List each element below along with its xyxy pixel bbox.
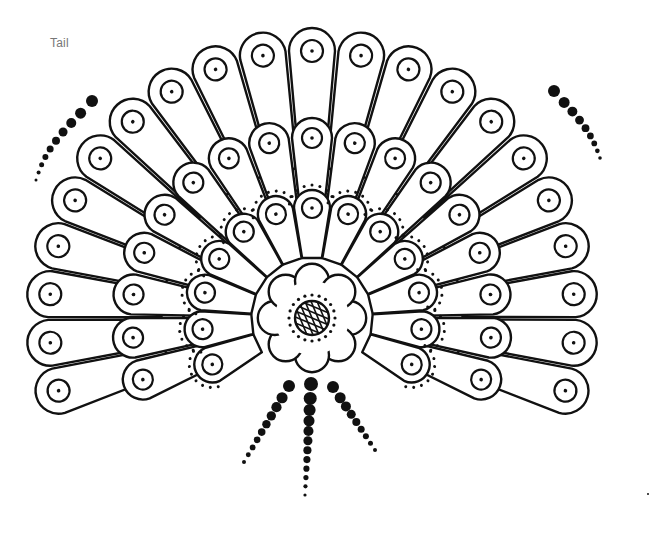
trail-dot — [373, 448, 377, 452]
trail-dot — [368, 441, 373, 446]
center-dot — [329, 330, 332, 333]
trail-dot — [559, 97, 570, 108]
trail-dot — [304, 404, 316, 416]
trail-dot — [267, 411, 276, 420]
border-dot — [288, 203, 291, 206]
trail-dot — [587, 133, 594, 140]
center-dot — [297, 298, 300, 301]
center-dot — [292, 303, 295, 306]
border-dot — [412, 385, 416, 389]
trail-dot — [303, 456, 310, 463]
peacock-tail-drawing — [0, 0, 652, 533]
center-dot — [332, 309, 335, 312]
center-dot — [310, 293, 313, 296]
border-dot — [318, 185, 321, 188]
trail-dot — [303, 415, 314, 426]
center-dot — [303, 295, 306, 298]
border-dot — [426, 379, 430, 383]
trail-dot — [303, 426, 313, 436]
trail-dot — [591, 141, 597, 147]
trail-dot — [303, 484, 307, 488]
trail-dot — [242, 460, 246, 464]
feather-eye-pupil — [310, 49, 314, 53]
border-dot — [296, 189, 299, 192]
trail-dot — [262, 420, 270, 428]
trail-dot — [35, 179, 38, 182]
trail-dot — [304, 377, 318, 391]
border-dot — [194, 379, 198, 383]
border-dot — [208, 385, 212, 389]
trail-dot — [335, 392, 346, 403]
feather-eye-pupil — [310, 206, 314, 210]
trail-dot — [341, 401, 351, 411]
trail-dot — [352, 418, 360, 426]
center-dot — [310, 339, 313, 342]
center-dot — [292, 330, 295, 333]
trail-dot — [258, 428, 266, 436]
center-dot — [324, 335, 327, 338]
border-dot — [325, 189, 328, 192]
border-dot — [311, 184, 314, 187]
trail-dot — [304, 392, 317, 405]
center-dot — [318, 295, 321, 298]
trail-dot — [254, 437, 261, 444]
center-dot — [289, 324, 292, 327]
trail-dot — [303, 436, 312, 445]
center-dot — [324, 298, 327, 301]
trail-dot — [548, 85, 560, 97]
border-dot — [419, 383, 423, 387]
center-dot — [297, 335, 300, 338]
trail-dot — [52, 137, 60, 145]
center-dot — [329, 303, 332, 306]
trail-dot — [358, 426, 365, 433]
trail-dot — [59, 128, 68, 137]
trail-dot — [582, 124, 590, 132]
trail-dot — [250, 444, 256, 450]
trail-dot — [271, 402, 281, 412]
trail-dot — [66, 118, 76, 128]
feather-eye-pupil — [310, 136, 314, 140]
trail-dot — [283, 380, 295, 392]
center-dot — [287, 316, 290, 319]
trail-dot — [598, 156, 602, 160]
center-dot — [333, 316, 336, 319]
bottom-right-trail — [327, 381, 377, 452]
trail-dot — [37, 170, 41, 174]
trail-dot — [86, 95, 98, 107]
trail-dot — [303, 466, 309, 472]
center-dot — [303, 338, 306, 341]
bottom-left-trail — [242, 380, 295, 464]
trail-dot — [303, 475, 308, 480]
trail-dot — [567, 107, 577, 117]
trail-dot — [595, 148, 600, 153]
trail-dot — [47, 145, 54, 152]
trail-dot — [327, 381, 339, 393]
border-dot — [404, 385, 408, 389]
bottom-center-trail — [303, 377, 318, 497]
border-dot — [216, 385, 220, 389]
border-dot — [291, 195, 294, 198]
trail-dot — [347, 410, 356, 419]
trail-dot — [575, 116, 584, 125]
trail-dot — [363, 433, 369, 439]
border-dot — [303, 185, 306, 188]
trail-dot — [303, 493, 306, 496]
trail-dot — [246, 452, 251, 457]
trail-dot — [39, 162, 44, 167]
trail-dot — [303, 446, 311, 454]
center-dot — [289, 309, 292, 312]
right-top-trail — [548, 85, 602, 160]
center-dot — [332, 324, 335, 327]
trail-dot — [276, 392, 287, 403]
border-dot — [201, 383, 205, 387]
stray-speck — [647, 493, 649, 495]
trail-dot — [75, 108, 86, 119]
center-flower — [258, 264, 366, 372]
trail-dot — [42, 154, 48, 160]
center-dot — [318, 338, 321, 341]
